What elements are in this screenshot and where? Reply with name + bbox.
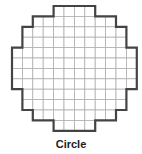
grid-cell	[12, 68, 22, 78]
grid-cell	[22, 79, 32, 89]
grid-cell	[85, 48, 95, 58]
grid-cell	[22, 58, 32, 68]
grid-cell	[54, 79, 64, 89]
grid-cell	[85, 89, 95, 99]
grid-cell	[106, 16, 116, 26]
grid-cell	[116, 37, 126, 47]
grid-cell	[43, 37, 53, 47]
grid-cell	[33, 89, 43, 99]
grid-cell	[74, 6, 84, 16]
grid-cell	[95, 110, 105, 120]
grid-cell	[54, 37, 64, 47]
grid-cell	[43, 79, 53, 89]
grid-cell	[54, 120, 64, 130]
grid-cell	[12, 58, 22, 68]
grid-cell	[106, 58, 116, 68]
grid-cell	[95, 58, 105, 68]
grid-cell	[54, 27, 64, 37]
grid-cell	[95, 27, 105, 37]
grid-cell	[22, 68, 32, 78]
grid-cell	[74, 37, 84, 47]
grid-cell	[54, 100, 64, 110]
figure-caption: Circle	[0, 138, 142, 150]
grid-cell	[106, 48, 116, 58]
grid-cell	[33, 27, 43, 37]
grid-cell	[54, 110, 64, 120]
grid-cell	[54, 68, 64, 78]
grid-cell	[64, 120, 74, 130]
grid-cell	[64, 100, 74, 110]
grid-cell	[85, 110, 95, 120]
grid-cell	[106, 27, 116, 37]
grid-cell	[43, 100, 53, 110]
grid-cell	[33, 68, 43, 78]
grid-cell	[116, 27, 126, 37]
grid-cell	[106, 89, 116, 99]
grid-cell	[95, 100, 105, 110]
grid-cell	[33, 100, 43, 110]
grid-cell	[116, 100, 126, 110]
grid-cell	[43, 58, 53, 68]
pixel-circle-diagram	[0, 0, 142, 154]
grid-cell	[74, 48, 84, 58]
grid-cell	[74, 79, 84, 89]
grid-cell	[106, 79, 116, 89]
grid-cell	[116, 48, 126, 58]
grid-cell	[116, 89, 126, 99]
grid-cell	[22, 37, 32, 47]
grid-cell	[22, 27, 32, 37]
grid-cell	[43, 16, 53, 26]
grid-cell	[95, 48, 105, 58]
grid-cell	[85, 37, 95, 47]
grid-cell	[126, 58, 136, 68]
grid-cell	[43, 68, 53, 78]
grid-cell	[126, 48, 136, 58]
grid-cell	[22, 100, 32, 110]
grid-cell	[64, 110, 74, 120]
grid-cell	[85, 79, 95, 89]
grid-cell	[54, 58, 64, 68]
grid-cell	[33, 58, 43, 68]
grid-cell	[64, 37, 74, 47]
grid-cell	[74, 120, 84, 130]
grid-cell	[64, 6, 74, 16]
grid-cell	[116, 58, 126, 68]
grid-cell	[106, 68, 116, 78]
grid-cell	[54, 6, 64, 16]
grid-cell	[116, 68, 126, 78]
grid-cell	[64, 79, 74, 89]
grid-cell	[64, 58, 74, 68]
grid-cell	[22, 89, 32, 99]
grid-cell	[22, 48, 32, 58]
grid-cell	[54, 48, 64, 58]
grid-cell	[106, 100, 116, 110]
grid-cell	[64, 68, 74, 78]
grid-cell	[95, 89, 105, 99]
grid-cell	[74, 16, 84, 26]
grid-cell	[85, 58, 95, 68]
grid-cell	[12, 48, 22, 58]
grid-cell	[33, 48, 43, 58]
grid-cell	[95, 79, 105, 89]
grid-cell	[106, 110, 116, 120]
grid-cell	[74, 27, 84, 37]
grid-cell	[74, 89, 84, 99]
grid-cell	[85, 16, 95, 26]
grid-cell	[85, 68, 95, 78]
grid-cell	[43, 89, 53, 99]
grid-cell	[126, 68, 136, 78]
grid-cell	[74, 68, 84, 78]
grid-cell	[116, 79, 126, 89]
grid-cell	[54, 16, 64, 26]
grid-cell	[74, 100, 84, 110]
grid-cell	[33, 37, 43, 47]
grid-cell	[106, 37, 116, 47]
grid-cell	[43, 48, 53, 58]
grid-cell	[74, 58, 84, 68]
grid-cell	[95, 37, 105, 47]
grid-cell	[85, 27, 95, 37]
grid-cell	[126, 79, 136, 89]
grid-cell	[33, 110, 43, 120]
grid-cell	[54, 89, 64, 99]
grid-cell	[64, 89, 74, 99]
